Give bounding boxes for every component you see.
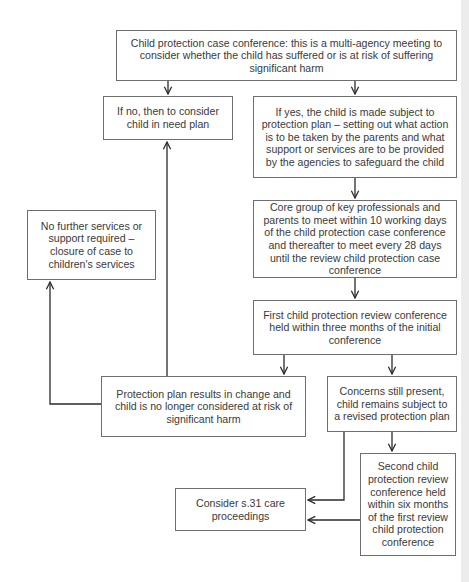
node-text: First child protection review conference… <box>260 309 450 347</box>
node-text: Core group of key professionals and pare… <box>260 201 450 277</box>
node-text: Child protection case conference: this i… <box>123 37 450 75</box>
node-text: Protection plan results in change and ch… <box>108 388 299 426</box>
node-text: Second child protection review conferenc… <box>367 460 449 548</box>
node-core-group: Core group of key professionals and pare… <box>253 200 457 278</box>
node-text: If yes, the child is made subject to pro… <box>260 106 450 169</box>
node-concerns-present: Concerns still present, child remains su… <box>327 376 457 432</box>
node-text: Consider s.31 care proceedings <box>182 497 299 522</box>
node-no-further-services: No further services or support required … <box>27 210 156 280</box>
node-s31-proceedings: Consider s.31 care proceedings <box>175 488 306 531</box>
node-if-yes: If yes, the child is made subject to pro… <box>253 96 457 178</box>
node-text: Concerns still present, child remains su… <box>334 385 450 423</box>
node-case-conference: Child protection case conference: this i… <box>116 30 457 81</box>
node-text: If no, then to consider child in need pl… <box>110 105 226 130</box>
node-text: No further services or support required … <box>34 220 149 270</box>
node-if-no: If no, then to consider child in need pl… <box>103 96 233 140</box>
node-first-review: First child protection review conference… <box>253 300 457 355</box>
node-plan-results-in-change: Protection plan results in change and ch… <box>101 376 306 437</box>
node-second-review: Second child protection review conferenc… <box>360 453 456 556</box>
